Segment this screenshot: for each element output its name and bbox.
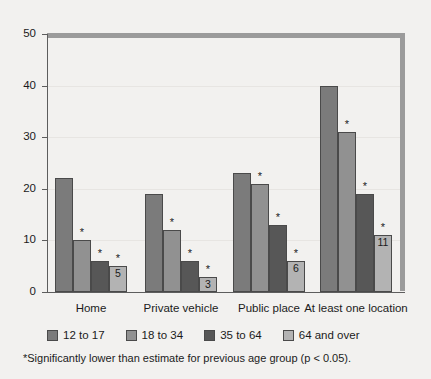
bar-group: ***3 bbox=[145, 33, 217, 293]
bar[interactable] bbox=[91, 261, 109, 292]
bar-value-label: 11 bbox=[376, 237, 390, 247]
significance-marker: * bbox=[340, 121, 354, 128]
significance-marker: * bbox=[201, 266, 215, 273]
significance-marker: * bbox=[271, 214, 285, 221]
y-axis: 50403020100 bbox=[0, 0, 40, 300]
legend-item[interactable]: 18 to 34 bbox=[126, 329, 184, 341]
legend-item[interactable]: 12 to 17 bbox=[47, 329, 105, 341]
significance-marker: * bbox=[93, 250, 107, 257]
bar[interactable] bbox=[233, 173, 251, 292]
legend-swatch-icon bbox=[283, 330, 294, 341]
y-axis-label: 40 bbox=[10, 80, 36, 91]
significance-marker: * bbox=[111, 255, 125, 262]
bar-group: ***5 bbox=[55, 33, 127, 293]
legend-label: 18 to 34 bbox=[142, 329, 184, 341]
bar[interactable] bbox=[55, 178, 73, 292]
significance-marker: * bbox=[358, 183, 372, 190]
legend-item[interactable]: 35 to 64 bbox=[204, 329, 262, 341]
significance-marker: * bbox=[183, 250, 197, 257]
bar[interactable] bbox=[145, 194, 163, 292]
y-axis-label: 20 bbox=[10, 183, 36, 194]
y-axis-label: 50 bbox=[10, 28, 36, 39]
chart-legend: 12 to 1718 to 3435 to 6464 and over bbox=[47, 329, 380, 341]
y-axis-label: 0 bbox=[10, 286, 36, 297]
significance-marker: * bbox=[376, 224, 390, 231]
bar[interactable] bbox=[181, 261, 199, 292]
legend-swatch-icon bbox=[47, 330, 58, 341]
bar[interactable] bbox=[320, 86, 338, 292]
y-axis-label: 30 bbox=[10, 131, 36, 142]
legend-label: 64 and over bbox=[299, 329, 360, 341]
bar-group: ***11 bbox=[320, 33, 392, 293]
bar[interactable] bbox=[269, 225, 287, 292]
legend-label: 12 to 17 bbox=[63, 329, 105, 341]
footnote: *Significantly lower than estimate for p… bbox=[23, 352, 351, 365]
legend-label: 35 to 64 bbox=[220, 329, 262, 341]
bar-value-label: 6 bbox=[289, 263, 303, 273]
x-axis-label: At least one location bbox=[296, 302, 416, 315]
significance-marker: * bbox=[75, 229, 89, 236]
bar[interactable] bbox=[73, 240, 91, 292]
y-axis-label: 10 bbox=[10, 234, 36, 245]
bar[interactable] bbox=[356, 194, 374, 292]
legend-swatch-icon bbox=[126, 330, 137, 341]
legend-item[interactable]: 64 and over bbox=[283, 329, 360, 341]
significance-marker: * bbox=[289, 250, 303, 257]
significance-marker: * bbox=[253, 173, 267, 180]
bar-group: ***6 bbox=[233, 33, 305, 293]
bar[interactable] bbox=[163, 230, 181, 292]
bar-plot-area: ***5***3***6***11 bbox=[47, 33, 405, 293]
bar[interactable] bbox=[338, 132, 356, 292]
significance-marker: * bbox=[165, 219, 179, 226]
chart-figure: 50403020100 ***5***3***6***11 HomePrivat… bbox=[0, 0, 431, 379]
bar-value-label: 3 bbox=[201, 279, 215, 289]
bar[interactable] bbox=[251, 184, 269, 292]
bar-value-label: 5 bbox=[111, 268, 125, 278]
legend-swatch-icon bbox=[204, 330, 215, 341]
